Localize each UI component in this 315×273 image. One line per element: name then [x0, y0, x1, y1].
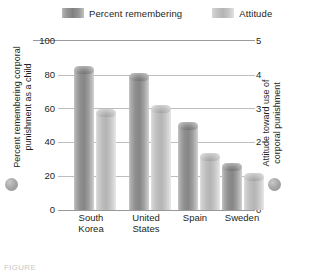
figure-caption: FIGURE: [4, 263, 36, 272]
chart-legend: Percent remembering Attitude: [62, 6, 262, 20]
category-label-line1: South: [62, 212, 120, 223]
bar-top-cap: [244, 173, 264, 181]
category-label-south-korea: South Korea: [62, 212, 120, 234]
legend-swatch-attitude: [212, 8, 234, 18]
category-label-line1: Sweden: [213, 212, 271, 223]
bar-top-cap: [178, 122, 198, 130]
bar-south-korea-percent-remembering[interactable]: [74, 66, 94, 210]
gridline-0-baseline: [58, 210, 255, 211]
bar-sweden-attitude[interactable]: [244, 173, 264, 210]
bar-body: [244, 177, 264, 210]
bar-top-cap: [222, 163, 242, 171]
category-label-line2: States: [117, 223, 175, 234]
bar-body: [151, 109, 171, 210]
bar-top-cap: [200, 153, 220, 161]
bar-spain-attitude[interactable]: [200, 153, 220, 210]
bar-body: [129, 77, 149, 210]
legend-item-attitude: Attitude: [212, 8, 272, 19]
bar-body: [200, 157, 220, 210]
bar-top-cap: [96, 109, 116, 117]
legend-label-attitude: Attitude: [239, 8, 272, 19]
category-label-line2: Korea: [62, 223, 120, 234]
legend-item-percent-remembering: Percent remembering: [62, 8, 182, 19]
bar-united-states-percent-remembering[interactable]: [129, 73, 149, 210]
right-axis-marker-dot: [268, 178, 281, 191]
bar-top-cap: [151, 105, 171, 113]
legend-swatch-percent-remembering: [62, 8, 84, 18]
bar-top-cap: [74, 66, 94, 74]
right-tick-5: 5: [256, 35, 270, 46]
bars-layer: [60, 41, 253, 210]
bar-body: [74, 70, 94, 210]
bar-top-cap: [129, 73, 149, 81]
plot-area: [60, 41, 253, 210]
bar-spain-percent-remembering[interactable]: [178, 122, 198, 210]
bar-south-korea-attitude[interactable]: [96, 109, 116, 210]
category-label-sweden: Sweden: [213, 212, 271, 223]
chart-container: Percent remembering Attitude 100 80 60 4…: [0, 0, 315, 273]
left-axis-title: Percent remembering corporal punishment …: [12, 32, 34, 182]
bar-body: [178, 126, 198, 210]
bar-body: [96, 113, 116, 210]
left-axis-marker-dot: [5, 178, 18, 191]
bar-body: [222, 167, 242, 210]
right-axis-title: Attitude toward use of corporal punishme…: [261, 63, 283, 183]
left-tick-0: 0: [29, 204, 55, 215]
bar-sweden-percent-remembering[interactable]: [222, 163, 242, 210]
bar-united-states-attitude[interactable]: [151, 105, 171, 210]
legend-label-percent-remembering: Percent remembering: [89, 8, 182, 19]
